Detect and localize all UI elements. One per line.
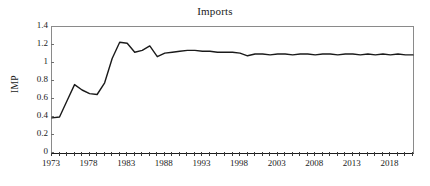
x-axis-tick-label: 1988 bbox=[155, 158, 173, 168]
y-axis-tick-label: 0.4 bbox=[2, 111, 48, 120]
x-axis-tick-mark bbox=[111, 152, 112, 156]
x-axis-tick-mark bbox=[352, 152, 353, 156]
y-axis-tick-label: 1.2 bbox=[2, 39, 48, 48]
x-axis-tick-mark bbox=[119, 152, 120, 156]
x-axis-tick-mark bbox=[254, 152, 255, 156]
x-axis-tick-labels: 1973197819831988199319982003200820132018 bbox=[0, 158, 430, 174]
x-axis-tick-mark bbox=[397, 152, 398, 156]
y-axis-tick-mark bbox=[51, 134, 54, 135]
y-axis-tick-label: 0.8 bbox=[2, 75, 48, 84]
x-axis-tick-mark bbox=[201, 152, 202, 156]
x-axis-tick-mark bbox=[307, 152, 308, 156]
x-axis-tick-mark bbox=[344, 152, 345, 156]
x-axis-tick-mark bbox=[164, 152, 165, 156]
chart-title: Imports bbox=[0, 5, 430, 17]
y-axis-tick-label: 0 bbox=[2, 147, 48, 156]
x-axis-tick-mark bbox=[269, 152, 270, 156]
data-series-imp bbox=[52, 27, 413, 153]
x-axis-tick-mark bbox=[104, 152, 105, 156]
y-axis-tick-mark bbox=[51, 116, 54, 117]
y-axis-tick-label: 0.2 bbox=[2, 129, 48, 138]
x-axis-tick-mark bbox=[292, 152, 293, 156]
y-axis-tick-label: 1.4 bbox=[2, 21, 48, 30]
x-axis-tick-mark bbox=[247, 152, 248, 156]
x-axis-tick-mark bbox=[232, 152, 233, 156]
plot-area bbox=[51, 26, 414, 154]
x-axis-tick-mark bbox=[171, 152, 172, 156]
x-axis-tick-label: 2018 bbox=[380, 158, 398, 168]
x-axis-tick-mark bbox=[66, 152, 67, 156]
x-axis-tick-label: 1998 bbox=[230, 158, 248, 168]
x-axis-tick-mark bbox=[126, 152, 127, 156]
y-axis-tick-mark bbox=[51, 44, 54, 45]
x-axis-tick-mark bbox=[277, 152, 278, 156]
imports-chart: Imports IMP 1.41.210.80.60.40.20 1973197… bbox=[0, 0, 430, 186]
x-axis-tick-mark bbox=[239, 152, 240, 156]
x-axis-tick-mark bbox=[59, 152, 60, 156]
x-axis-tick-label: 2008 bbox=[305, 158, 323, 168]
x-axis-tick-mark bbox=[209, 152, 210, 156]
y-axis-tick-mark bbox=[51, 98, 54, 99]
x-axis-tick-mark bbox=[74, 152, 75, 156]
x-axis-tick-label: 1973 bbox=[42, 158, 60, 168]
x-axis-tick-mark bbox=[367, 152, 368, 156]
x-axis-tick-mark bbox=[389, 152, 390, 156]
line-series-imp bbox=[52, 42, 413, 118]
x-axis-tick-mark bbox=[284, 152, 285, 156]
x-axis-tick-mark bbox=[299, 152, 300, 156]
x-axis-tick-mark bbox=[134, 152, 135, 156]
x-axis-tick-mark bbox=[96, 152, 97, 156]
x-axis-tick-mark bbox=[141, 152, 142, 156]
y-axis-tick-label: 1 bbox=[2, 57, 48, 66]
x-axis-tick-mark bbox=[322, 152, 323, 156]
y-axis-tick-mark bbox=[51, 152, 54, 153]
x-axis-tick-marks bbox=[51, 152, 413, 157]
x-axis-tick-label: 2003 bbox=[268, 158, 286, 168]
x-axis-tick-mark bbox=[382, 152, 383, 156]
x-axis-tick-label: 1993 bbox=[192, 158, 210, 168]
x-axis-tick-label: 1983 bbox=[117, 158, 135, 168]
x-axis-tick-mark bbox=[194, 152, 195, 156]
x-axis-tick-mark bbox=[179, 152, 180, 156]
y-axis-tick-mark bbox=[51, 80, 54, 81]
x-axis-tick-mark bbox=[216, 152, 217, 156]
x-axis-tick-label: 2013 bbox=[343, 158, 361, 168]
x-axis-tick-mark bbox=[156, 152, 157, 156]
x-axis-tick-mark bbox=[89, 152, 90, 156]
x-axis-tick-mark bbox=[412, 152, 413, 156]
x-axis-tick-mark bbox=[329, 152, 330, 156]
x-axis-tick-mark bbox=[374, 152, 375, 156]
x-axis-tick-mark bbox=[81, 152, 82, 156]
x-axis-tick-mark bbox=[149, 152, 150, 156]
x-axis-tick-mark bbox=[337, 152, 338, 156]
x-axis-tick-mark bbox=[404, 152, 405, 156]
x-axis-tick-mark bbox=[224, 152, 225, 156]
y-axis-tick-mark bbox=[51, 62, 54, 63]
x-axis-tick-mark bbox=[359, 152, 360, 156]
x-axis-tick-mark bbox=[186, 152, 187, 156]
x-axis-tick-mark bbox=[262, 152, 263, 156]
y-axis-tick-label: 0.6 bbox=[2, 93, 48, 102]
x-axis-tick-mark bbox=[314, 152, 315, 156]
x-axis-tick-label: 1978 bbox=[80, 158, 98, 168]
